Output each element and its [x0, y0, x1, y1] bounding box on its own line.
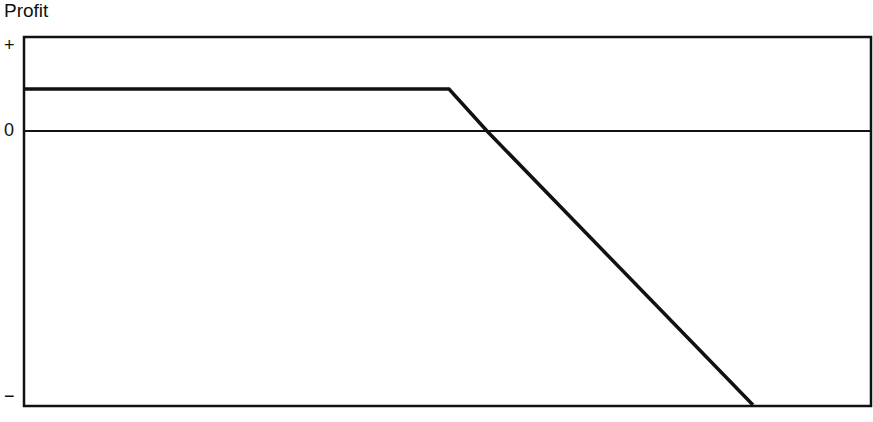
chart-canvas	[0, 0, 873, 422]
profit-line	[24, 89, 753, 405]
plot-frame	[24, 37, 871, 406]
